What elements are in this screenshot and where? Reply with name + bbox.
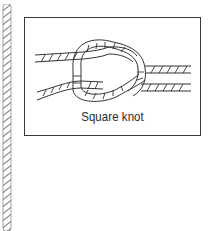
figure-caption: Square knot [36,109,190,124]
rope-border-decoration [2,4,12,231]
square-knot-illustration [33,32,193,102]
illustration-frame: Square knot [24,17,201,136]
